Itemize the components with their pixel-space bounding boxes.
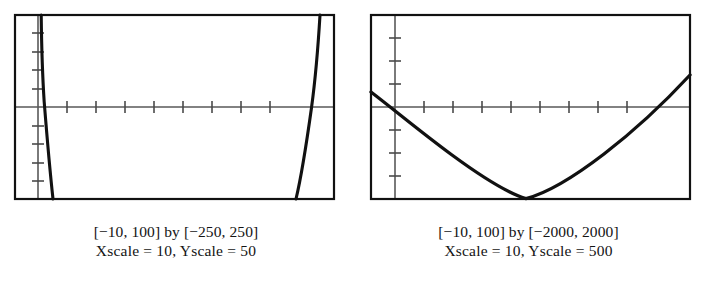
caption-right-scales: Xscale = 10, Yscale = 500 [352,241,705,260]
graph-panel-left: [−10, 100] by [−250, 250] Xscale = 10, Y… [0,0,352,295]
graph-panel-right: [−10, 100] by [−2000, 2000] Xscale = 10,… [352,0,705,295]
caption-left-scales: Xscale = 10, Yscale = 50 [0,241,352,260]
plot-left [0,0,352,215]
caption-left-window: [−10, 100] by [−250, 250] [0,222,352,241]
plot-right [352,0,705,215]
figure-two-viewing-windows: [−10, 100] by [−250, 250] Xscale = 10, Y… [0,0,705,295]
caption-left: [−10, 100] by [−250, 250] Xscale = 10, Y… [0,222,352,260]
caption-right-window: [−10, 100] by [−2000, 2000] [352,222,705,241]
caption-right: [−10, 100] by [−2000, 2000] Xscale = 10,… [352,222,705,260]
